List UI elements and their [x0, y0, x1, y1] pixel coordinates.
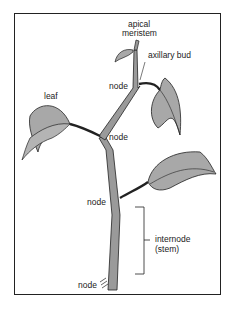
lower-right-leaf [148, 152, 216, 190]
axillary-pointer [140, 62, 145, 80]
label-node-mid: node [109, 133, 128, 142]
young-leaf [115, 50, 133, 63]
label-axillary-bud: axillary bud [148, 51, 191, 60]
label-meristem: meristem [122, 29, 157, 38]
label-stem: (stem) [155, 245, 179, 254]
label-node-lower: node [87, 198, 106, 207]
root-marks [100, 278, 108, 288]
stem-upper [99, 50, 140, 140]
label-internode: internode [155, 235, 190, 244]
label-node-top: node [109, 82, 128, 91]
lower-right-petiole [120, 182, 148, 198]
label-node-bottom: node [78, 281, 97, 290]
apical-meristem-shape [134, 40, 139, 50]
stem-lower [99, 136, 120, 290]
plant-illustration [0, 0, 231, 312]
internode-bracket [135, 207, 150, 274]
upper-right-petiole [139, 83, 160, 90]
left-petiole [70, 124, 100, 136]
label-leaf: leaf [44, 92, 58, 101]
